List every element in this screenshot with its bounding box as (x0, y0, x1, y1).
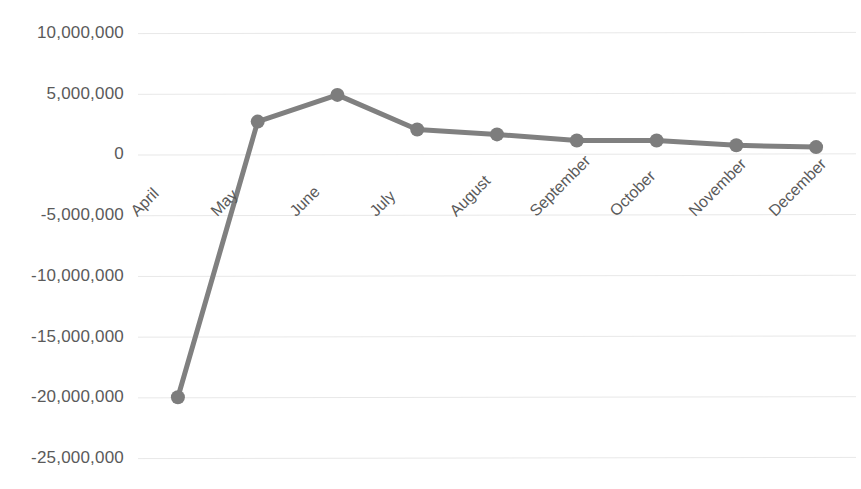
data-point-marker (809, 140, 823, 154)
y-axis-tick-label: 5,000,000 (47, 84, 124, 104)
chart-plot-area (0, 0, 861, 489)
data-point-marker (410, 123, 424, 137)
y-axis-tick-label: 0 (114, 144, 124, 164)
data-point-marker (330, 88, 344, 102)
data-point-marker (251, 115, 265, 129)
gridline (138, 215, 856, 216)
y-axis-tick-label: 10,000,000 (37, 23, 124, 43)
gridline (138, 457, 856, 458)
y-axis-tick-label: -15,000,000 (31, 327, 124, 347)
data-point-marker (171, 390, 185, 404)
data-point-marker (490, 127, 504, 141)
gridline (138, 397, 856, 398)
gridline (138, 93, 856, 94)
data-point-marker (729, 138, 743, 152)
gridlines (138, 32, 856, 458)
y-axis-tick-label: -10,000,000 (31, 266, 124, 286)
gridline (138, 32, 856, 33)
gridline (138, 336, 856, 337)
line-chart: 10,000,0005,000,0000-5,000,000-10,000,00… (0, 0, 861, 489)
y-axis-tick-label: -5,000,000 (41, 205, 124, 225)
data-point-marker (570, 134, 584, 148)
y-axis-tick-label: -25,000,000 (31, 448, 124, 468)
series-markers (171, 88, 823, 404)
y-axis-tick-label: -20,000,000 (31, 387, 124, 407)
gridline (138, 275, 856, 276)
data-point-marker (650, 134, 664, 148)
